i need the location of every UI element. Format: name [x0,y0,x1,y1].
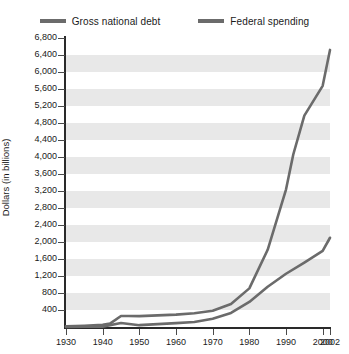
series-layer [0,0,349,354]
line-chart: Gross national debt Federal spending Dol… [0,0,349,354]
series-line [66,50,330,326]
